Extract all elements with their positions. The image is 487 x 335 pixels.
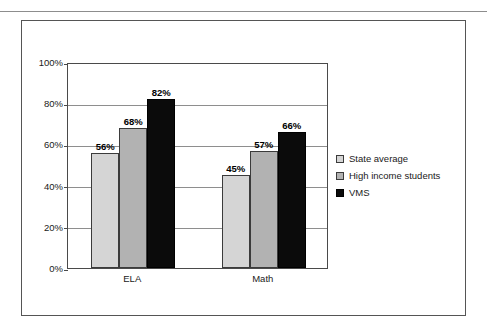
legend-label: State average [349, 153, 408, 164]
legend-swatch-icon [336, 172, 344, 180]
chart-legend: State averageHigh income studentsVMS [336, 151, 440, 202]
bar-math-state-average[interactable] [222, 175, 250, 268]
legend-item-state-average[interactable]: State average [336, 151, 440, 166]
y-axis-tick-label: 80% [23, 99, 63, 109]
y-axis-tick [64, 228, 68, 229]
x-axis-label-ela: ELA [67, 273, 198, 284]
bar-value-label: 66% [272, 120, 312, 131]
legend-item-high-income-students[interactable]: High income students [336, 168, 440, 183]
page-top-rule [0, 11, 487, 12]
legend-label: VMS [349, 187, 370, 198]
legend-label: High income students [349, 170, 440, 181]
bar-ela-vms[interactable] [147, 99, 175, 268]
plot-area: 56%68%82%45%57%66% [67, 63, 328, 269]
bar-math-vms[interactable] [278, 132, 306, 268]
legend-item-vms[interactable]: VMS [336, 185, 440, 200]
bars-layer: 56%68%82%45%57%66% [68, 64, 327, 268]
chart-frame: 0%20%40%60%80%100% 56%68%82%45%57%66% EL… [21, 20, 466, 316]
bar-math-high-income-students[interactable] [250, 151, 278, 268]
y-axis-tick [64, 187, 68, 188]
y-axis-tick-labels: 0%20%40%60%80%100% [22, 63, 63, 269]
y-axis-tick [64, 270, 68, 271]
bar-ela-high-income-students[interactable] [119, 128, 147, 268]
y-axis-tick-label: 100% [23, 58, 63, 68]
legend-swatch-icon [336, 189, 344, 197]
y-axis-tick [64, 64, 68, 65]
y-axis-tick-label: 20% [23, 223, 63, 233]
bar-value-label: 82% [141, 87, 181, 98]
bar-ela-state-average[interactable] [91, 153, 119, 268]
y-axis-tick-label: 40% [23, 182, 63, 192]
x-axis-label-math: Math [198, 273, 329, 284]
y-axis-tick-label: 0% [23, 264, 63, 274]
y-axis-tick-label: 60% [23, 140, 63, 150]
legend-swatch-icon [336, 155, 344, 163]
y-axis-tick [64, 146, 68, 147]
y-axis-tick [64, 105, 68, 106]
